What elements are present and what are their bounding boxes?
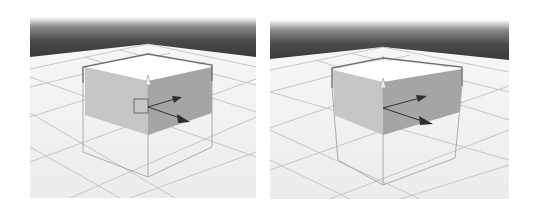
viewport-right-scene (270, 20, 509, 199)
viewport-left[interactable] (30, 17, 256, 198)
viewport-right[interactable] (270, 20, 509, 199)
viewport-left-scene (30, 17, 256, 198)
